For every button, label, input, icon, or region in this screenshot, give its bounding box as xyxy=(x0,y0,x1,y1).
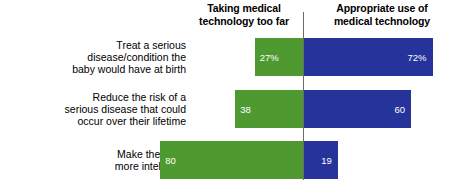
table-row: Reduce the risk of a serious disease tha… xyxy=(0,90,456,130)
bar-value-left-0: 27% xyxy=(260,52,279,63)
diverging-bar-chart: Taking medical technology too far Approp… xyxy=(0,0,456,184)
legend-label-right-line2: medical technology xyxy=(312,15,452,28)
legend-label-left-series: Taking medical technology too far xyxy=(186,2,302,27)
bar-value-right-0: 72% xyxy=(408,52,427,63)
bar-left-series-0[interactable]: 27% xyxy=(255,38,303,76)
bar-right-series-2[interactable]: 19 xyxy=(304,141,338,179)
bar-right-series-1[interactable]: 60 xyxy=(304,90,411,128)
bar-left-series-1[interactable]: 38 xyxy=(235,90,303,128)
legend-label-right-series: Appropriate use of medical technology xyxy=(312,2,452,27)
table-row: Make the baby more intelligent 80 19 xyxy=(0,141,456,181)
bar-value-left-2: 80 xyxy=(165,155,176,166)
bar-right-series-0[interactable]: 72% xyxy=(304,38,433,76)
bar-group-0: 27% 72% xyxy=(0,38,456,78)
table-row: Treat a serious disease/condition the ba… xyxy=(0,38,456,78)
legend-label-left-line2: technology too far xyxy=(186,15,302,28)
bar-value-left-1: 38 xyxy=(240,104,251,115)
bar-left-series-2[interactable]: 80 xyxy=(160,141,303,179)
bar-group-1: 38 60 xyxy=(0,90,456,130)
legend-label-right-line1: Appropriate use of xyxy=(312,2,452,15)
legend-label-left-line1: Taking medical xyxy=(186,2,302,15)
chart-legend-header: Taking medical technology too far Approp… xyxy=(0,0,456,34)
bar-value-right-1: 60 xyxy=(395,104,406,115)
bar-value-right-2: 19 xyxy=(321,155,332,166)
bar-group-2: 80 19 xyxy=(0,141,456,181)
